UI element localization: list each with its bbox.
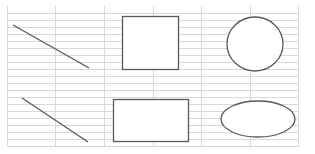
square-shape[interactable] [123,17,179,70]
worksheet-canvas [0,0,315,154]
diagonal-line-shape-top[interactable] [13,25,89,68]
circle-shape[interactable] [227,17,283,71]
rectangle-shape[interactable] [114,100,189,142]
ellipse-shape[interactable] [221,101,295,137]
